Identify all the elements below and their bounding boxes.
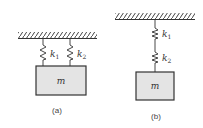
caption-b: (b) (151, 112, 161, 121)
mass-label-b: m (151, 81, 160, 91)
mass-label-a: m (57, 76, 66, 86)
diagram-b: k1 k2 m (b) (115, 13, 195, 121)
spring-k1-b (152, 20, 158, 48)
spring-mass-figure: k1 k2 m (a) k1 k2 m (b) (0, 0, 203, 128)
spring-label-k2-a: k2 (77, 49, 86, 60)
ceiling-hatch-a (18, 32, 97, 38)
caption-a: (a) (52, 106, 62, 115)
spring-k1-a (40, 39, 46, 66)
ceiling-hatch-b (115, 13, 195, 19)
spring-k2-a (67, 39, 73, 66)
spring-label-k1-b: k1 (162, 29, 171, 40)
spring-label-k2-b: k2 (162, 53, 171, 64)
spring-label-k1-a: k1 (50, 49, 59, 60)
diagram-a: k1 k2 m (a) (18, 32, 97, 115)
spring-k2-b (152, 48, 158, 72)
